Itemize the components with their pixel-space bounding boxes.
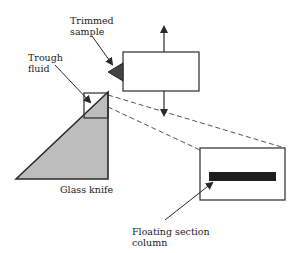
label-floating-section: Floating section column [132, 226, 210, 248]
floating-section-bar [209, 172, 276, 181]
label-glass-knife: Glass knife [60, 184, 113, 195]
label-trough-fluid-line2: fluid [28, 63, 63, 74]
label-floating-section-line1: Floating section [132, 226, 210, 237]
cropped-side-text [288, 70, 298, 170]
label-trough-fluid-line1: Trough [28, 52, 63, 63]
trimmed-sample-shape [108, 63, 123, 81]
trimmed-sample-leader-arrow [92, 36, 112, 64]
label-trimmed-sample-line1: Trimmed [70, 15, 114, 26]
diagram-canvas [0, 0, 302, 253]
label-floating-section-line2: column [132, 237, 210, 248]
floating-section-leader-arrow [165, 183, 212, 220]
label-trimmed-sample: Trimmed sample [70, 15, 114, 37]
label-trough-fluid: Trough fluid [28, 52, 63, 74]
projection-lines [108, 95, 285, 150]
label-trimmed-sample-line2: sample [70, 26, 114, 37]
glass-knife-shape [16, 92, 108, 179]
sample-holder-box [123, 52, 199, 91]
